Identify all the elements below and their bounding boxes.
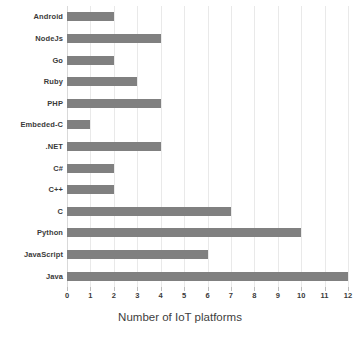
bar-row — [67, 201, 348, 223]
bar-python — [67, 228, 301, 237]
bar-row — [67, 6, 348, 28]
bar-row — [67, 157, 348, 179]
bar-embeded-c — [67, 120, 90, 129]
y-axis-label-net: .NET — [0, 136, 63, 158]
x-tick-label-8: 8 — [252, 291, 256, 300]
y-axis-label-android: Android — [0, 6, 63, 28]
y-axis-category-labels: AndroidNodeJsGoRubyPHPEmbeded-C.NETC#C++… — [0, 6, 63, 287]
bar-row — [67, 28, 348, 50]
bar-javascript — [67, 250, 208, 259]
bar-row — [67, 265, 348, 287]
bar-row — [67, 136, 348, 158]
x-tick-label-10: 10 — [297, 291, 305, 300]
x-tick-label-2: 2 — [112, 291, 116, 300]
x-tick-label-3: 3 — [135, 291, 139, 300]
x-tick-label-7: 7 — [229, 291, 233, 300]
x-tick-label-4: 4 — [159, 291, 163, 300]
x-tick-label-9: 9 — [276, 291, 280, 300]
y-axis-label-go: Go — [0, 49, 63, 71]
y-axis-label-ruby: Ruby — [0, 71, 63, 93]
y-axis-label-embeded-c: Embeded-C — [0, 114, 63, 136]
bar-android — [67, 12, 114, 21]
bar-ruby — [67, 77, 137, 86]
y-axis-label-c: C++ — [0, 179, 63, 201]
bar-row — [67, 71, 348, 93]
bars-container — [67, 6, 348, 287]
bar-row — [67, 49, 348, 71]
y-axis-label-c: C# — [0, 157, 63, 179]
bar-row — [67, 222, 348, 244]
x-axis-title: Number of IoT platforms — [0, 311, 360, 323]
bar-c — [67, 185, 114, 194]
grid-line — [348, 6, 349, 287]
bar-row — [67, 244, 348, 266]
bar-c — [67, 207, 231, 216]
y-axis-label-nodejs: NodeJs — [0, 28, 63, 50]
bar-row — [67, 114, 348, 136]
bar-php — [67, 99, 161, 108]
x-axis-ticks: 0123456789101112 — [67, 287, 348, 305]
plot-area — [67, 6, 348, 287]
bar-net — [67, 142, 161, 151]
bar-row — [67, 179, 348, 201]
x-tick-label-1: 1 — [88, 291, 92, 300]
x-tick-label-0: 0 — [65, 291, 69, 300]
y-axis-label-c: C — [0, 201, 63, 223]
bar-nodejs — [67, 34, 161, 43]
x-tick-label-6: 6 — [205, 291, 209, 300]
bar-java — [67, 272, 348, 281]
y-axis-label-python: Python — [0, 222, 63, 244]
y-axis-label-php: PHP — [0, 92, 63, 114]
y-axis-label-java: Java — [0, 265, 63, 287]
bar-chart-figure: AndroidNodeJsGoRubyPHPEmbeded-C.NETC#C++… — [0, 0, 360, 341]
bar-c — [67, 164, 114, 173]
x-tick-label-11: 11 — [321, 291, 329, 300]
bar-go — [67, 56, 114, 65]
y-axis-label-javascript: JavaScript — [0, 244, 63, 266]
x-tick-label-5: 5 — [182, 291, 186, 300]
x-tick-label-12: 12 — [344, 291, 352, 300]
bar-row — [67, 92, 348, 114]
